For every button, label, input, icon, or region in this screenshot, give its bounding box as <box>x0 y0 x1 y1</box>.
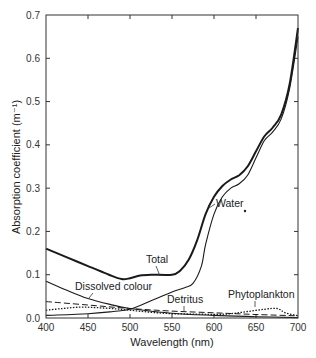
x-tick-label: 700 <box>290 322 307 333</box>
label-detritus: Detritus <box>167 293 203 305</box>
y-tick-label: 0.6 <box>26 53 40 64</box>
curve-total <box>46 28 298 279</box>
y-tick-label: 0.5 <box>26 96 40 107</box>
axis-ticks <box>46 15 298 318</box>
plot-curves <box>46 28 298 318</box>
x-tick-label: 500 <box>122 322 139 333</box>
x-tick-label: 400 <box>38 322 55 333</box>
y-axis-title: Absorption coefficient (m⁻¹) <box>10 100 22 234</box>
water-dot <box>244 210 246 212</box>
absorption-chart: 4004505005506006507000.00.10.20.30.40.50… <box>0 0 316 358</box>
label-phytoplankton: Phytoplankton <box>228 288 295 300</box>
label-water: Water <box>216 197 244 209</box>
curve-water <box>46 37 298 316</box>
leader-dissolved <box>89 293 93 298</box>
x-axis-title: Wavelength (nm) <box>130 336 213 348</box>
y-tick-label: 0.1 <box>26 269 40 280</box>
figure-caption-fragment <box>10 352 310 358</box>
plot-frame <box>46 15 298 318</box>
x-tick-label: 600 <box>206 322 223 333</box>
label-total: Total <box>146 253 168 265</box>
tick-labels: 4004505005506006507000.00.10.20.30.40.50… <box>26 10 307 334</box>
y-tick-label: 0.7 <box>26 10 40 21</box>
y-tick-label: 0.3 <box>26 183 40 194</box>
y-tick-label: 0.2 <box>26 226 40 237</box>
x-tick-label: 450 <box>80 322 97 333</box>
y-tick-label: 0.0 <box>26 313 40 324</box>
y-tick-label: 0.4 <box>26 139 40 150</box>
x-tick-label: 550 <box>164 322 181 333</box>
label-dissolved-colour: Dissolved colour <box>75 280 153 292</box>
x-tick-label: 650 <box>248 322 265 333</box>
